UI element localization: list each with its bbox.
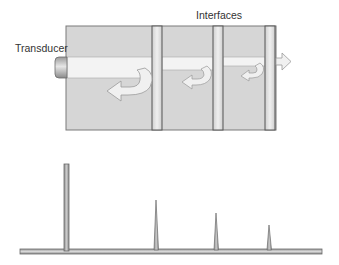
transducer-label: Transducer: [15, 42, 68, 54]
echo-spike-3: [267, 225, 272, 250]
interface-1: [152, 26, 162, 130]
echo-spike-1: [154, 200, 159, 250]
interface-3: [265, 26, 275, 130]
interfaces-label: Interfaces: [196, 9, 242, 21]
transducer: [55, 57, 67, 78]
ultrasound-diagram: Transducer Interfaces: [0, 0, 339, 265]
a-scan-trace: [20, 164, 322, 254]
initial-pulse-bar: [64, 164, 69, 251]
transmitted-arrow: [276, 53, 291, 70]
diagram-graphic: [0, 0, 339, 265]
interface-2: [213, 26, 223, 130]
echo-spike-2: [214, 213, 219, 250]
